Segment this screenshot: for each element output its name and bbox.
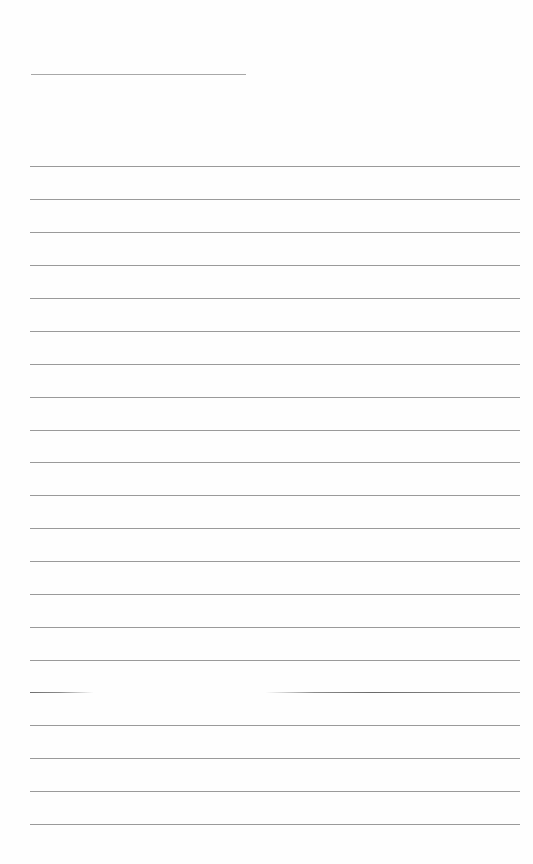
ruled-line bbox=[30, 430, 520, 431]
title-line bbox=[31, 74, 246, 75]
ruled-line bbox=[30, 166, 520, 167]
ruled-line bbox=[30, 594, 520, 595]
ruled-line bbox=[30, 298, 520, 299]
ruled-line bbox=[30, 265, 520, 266]
ruled-line bbox=[30, 397, 520, 398]
ruled-line bbox=[30, 364, 520, 365]
ruled-line bbox=[30, 528, 520, 529]
ruled-line bbox=[30, 692, 520, 693]
ruled-line bbox=[30, 660, 520, 661]
lined-paper-page bbox=[0, 0, 533, 864]
ruled-line bbox=[30, 495, 520, 496]
ruled-line bbox=[30, 199, 520, 200]
ruled-line bbox=[30, 331, 520, 332]
ruled-line bbox=[30, 725, 520, 726]
ruled-line bbox=[30, 462, 520, 463]
ruled-line bbox=[30, 232, 520, 233]
ruled-line bbox=[30, 561, 520, 562]
ruled-line bbox=[30, 758, 520, 759]
ruled-line bbox=[30, 791, 520, 792]
ruled-line bbox=[30, 824, 520, 825]
ruled-line bbox=[30, 627, 520, 628]
